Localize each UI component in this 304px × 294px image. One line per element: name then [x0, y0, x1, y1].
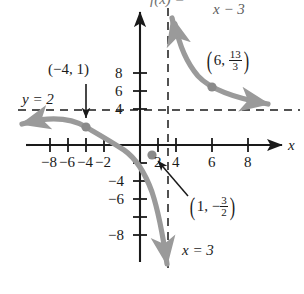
left-paren: (: [190, 198, 195, 217]
left-paren: (: [207, 52, 212, 71]
x-tick-label-neg6: −6: [59, 155, 75, 170]
y-tick-label-neg4: −4: [108, 174, 124, 189]
x-tick-label-neg2: −2: [95, 155, 111, 170]
y-tick-label-6: 6: [115, 84, 123, 99]
point-label-neg4-1-text: (−4, 1): [48, 61, 89, 77]
point-label-neg4-1: (−4, 1): [48, 62, 89, 77]
fraction-3-over-2: 32: [220, 195, 228, 219]
y-tick-label-neg6: −6: [108, 192, 124, 207]
x-tick-label-6: 6: [208, 155, 216, 170]
y-tick-label-4: 4: [115, 102, 123, 117]
right-paren: ): [229, 198, 234, 217]
x-tick-label-4: 4: [172, 155, 180, 170]
point-label-6-13over3: (6, 133): [205, 50, 250, 74]
x-tick-label-neg8: −8: [41, 155, 57, 170]
x-tick-label-8: 8: [244, 155, 252, 170]
fraction-denominator: 3: [229, 61, 242, 72]
graph-figure: f(x) = x − 3 x 8 6 4 −4 −6 −8 −8 −6 −4 −…: [0, 0, 304, 294]
horizontal-asymptote-label: y = 2: [22, 92, 54, 107]
point-marker-6-13over3: [207, 82, 216, 91]
x-tick-label-neg4: −4: [77, 155, 93, 170]
comma: ,: [204, 198, 212, 214]
curve-left-branch: [22, 119, 167, 264]
function-label-denominator: x − 3: [213, 1, 245, 18]
right-paren: ): [243, 52, 248, 71]
y-tick-label-neg8: −8: [108, 228, 124, 243]
graph-canvas: [0, 0, 304, 294]
fraction-denominator: 2: [220, 207, 228, 218]
point-marker-neg4-1: [81, 122, 90, 131]
x-tick-label-2: 2: [154, 155, 162, 170]
fraction-13-over-3: 133: [229, 49, 242, 73]
point-label-1-neg3over2: (1, −32): [188, 196, 236, 220]
fraction-sign: −: [212, 198, 220, 214]
comma: ,: [221, 52, 229, 68]
y-tick-label-8: 8: [115, 66, 123, 81]
function-label-lhs: f(x) =: [150, 0, 185, 8]
x-axis-label: x: [288, 138, 295, 153]
vertical-asymptote-label: x = 3: [182, 243, 214, 258]
